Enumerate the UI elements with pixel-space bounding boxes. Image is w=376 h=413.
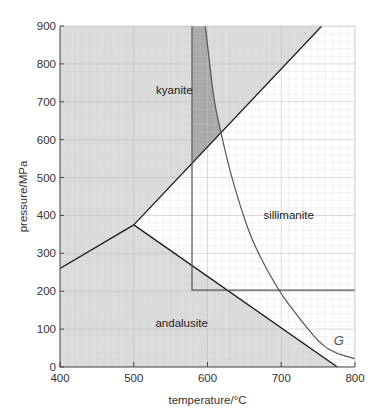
y-tick-label: 900 — [37, 20, 56, 32]
y-tick-label: 500 — [37, 172, 56, 184]
sillimanite-label: sillimanite — [263, 209, 314, 221]
curve-G-label: G — [334, 333, 344, 348]
y-tick-label: 700 — [37, 96, 56, 108]
y-tick-label: 400 — [37, 209, 56, 221]
x-tick-label: 800 — [345, 372, 364, 384]
y-tick-label: 800 — [37, 58, 56, 70]
x-axis-title: temperature/°C — [168, 394, 246, 406]
y-tick-label: 100 — [37, 323, 56, 335]
y-tick-label: 600 — [37, 134, 56, 146]
x-tick-label: 500 — [124, 372, 143, 384]
kyanite-label: kyanite — [156, 84, 192, 96]
x-tick-label: 600 — [198, 372, 217, 384]
andalusite-label: andalusite — [155, 317, 207, 329]
x-tick-label: 700 — [272, 372, 291, 384]
y-axis-title: pressure/MPa — [17, 160, 29, 232]
y-tick-label: 200 — [37, 285, 56, 297]
y-tick-label: 0 — [50, 361, 56, 373]
x-tick-label: 400 — [50, 372, 69, 384]
phase-diagram-chart: 4005006007008000100200300400500600700800… — [0, 0, 376, 413]
y-tick-label: 300 — [37, 247, 56, 259]
